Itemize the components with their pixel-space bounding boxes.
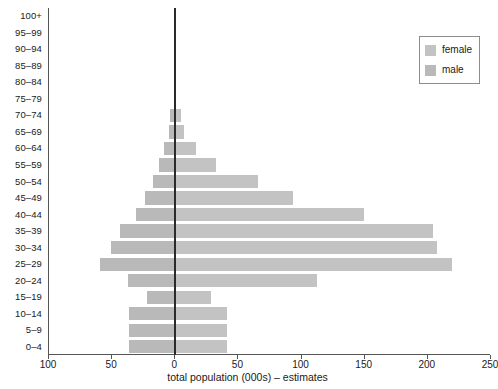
y-axis: 0–45–910–1415–1920–2425–2930–3435–3940–4… <box>0 8 46 355</box>
bar-male[interactable] <box>129 340 174 353</box>
bar-male[interactable] <box>120 224 174 237</box>
bar-male[interactable] <box>153 175 174 188</box>
chart-legend: female male <box>419 36 480 84</box>
bar-row <box>48 125 490 138</box>
bar-female[interactable] <box>174 142 195 155</box>
bar-female[interactable] <box>174 307 227 320</box>
y-tick-label: 100+ <box>20 12 42 22</box>
bar-row <box>48 340 490 353</box>
y-tick-label: 50–54 <box>15 177 42 187</box>
y-tick-label: 85–89 <box>15 61 42 71</box>
bar-male[interactable] <box>111 241 174 254</box>
bar-female[interactable] <box>174 175 257 188</box>
bar-female[interactable] <box>174 274 317 287</box>
bar-male[interactable] <box>129 324 174 337</box>
y-tick-label: 80–84 <box>15 78 42 88</box>
bar-row <box>48 241 490 254</box>
x-tick-label: 0 <box>172 360 178 370</box>
x-tick-label: 100 <box>292 360 309 370</box>
bar-male[interactable] <box>129 307 174 320</box>
x-tick-label: 50 <box>106 360 117 370</box>
bar-row <box>48 291 490 304</box>
bar-male[interactable] <box>159 158 174 171</box>
bar-row <box>48 158 490 171</box>
bar-male[interactable] <box>164 142 174 155</box>
bar-female[interactable] <box>174 258 452 271</box>
x-tick-label: 250 <box>482 360 498 370</box>
y-tick-label: 20–24 <box>15 276 42 286</box>
y-tick-label: 15–19 <box>15 292 42 302</box>
bar-female[interactable] <box>174 224 433 237</box>
zero-reference-line <box>174 8 175 355</box>
legend-item-male[interactable]: male <box>425 62 472 78</box>
bar-row <box>48 324 490 337</box>
bar-female[interactable] <box>174 291 211 304</box>
y-tick-label: 65–69 <box>15 127 42 137</box>
x-axis-title: total population (000s) – estimates <box>0 371 495 383</box>
x-tick-label: 200 <box>419 360 436 370</box>
y-tick-label: 75–79 <box>15 94 42 104</box>
bar-row <box>48 224 490 237</box>
bar-female[interactable] <box>174 324 227 337</box>
legend-swatch-male-icon <box>425 65 436 76</box>
x-tick-label: 150 <box>355 360 372 370</box>
bar-female[interactable] <box>174 241 437 254</box>
bar-female[interactable] <box>174 208 363 221</box>
y-tick-label: 5–9 <box>26 325 42 335</box>
bar-row <box>48 258 490 271</box>
y-tick-label: 0–4 <box>26 342 42 352</box>
y-tick-label: 60–64 <box>15 144 42 154</box>
bar-row <box>48 307 490 320</box>
bar-female[interactable] <box>174 340 227 353</box>
y-tick-label: 45–49 <box>15 193 42 203</box>
x-tick-label: 100 <box>40 360 57 370</box>
y-tick-label: 25–29 <box>15 259 42 269</box>
legend-label-male: male <box>442 65 464 75</box>
bar-row <box>48 109 490 122</box>
bar-male[interactable] <box>147 291 175 304</box>
bar-male[interactable] <box>136 208 174 221</box>
y-tick-label: 70–74 <box>15 111 42 121</box>
y-tick-label: 55–59 <box>15 160 42 170</box>
legend-item-female[interactable]: female <box>425 42 472 58</box>
legend-swatch-female-icon <box>425 45 436 56</box>
bar-male[interactable] <box>100 258 175 271</box>
bar-female[interactable] <box>174 158 216 171</box>
x-tick-label: 50 <box>232 360 243 370</box>
bar-row <box>48 208 490 221</box>
y-tick-label: 90–94 <box>15 45 42 55</box>
bar-female[interactable] <box>174 191 293 204</box>
y-tick-label: 10–14 <box>15 309 42 319</box>
bar-row <box>48 191 490 204</box>
y-tick-label: 40–44 <box>15 210 42 220</box>
bar-male[interactable] <box>145 191 174 204</box>
legend-label-female: female <box>442 45 472 55</box>
bar-row <box>48 175 490 188</box>
bar-row <box>48 274 490 287</box>
y-tick-label: 30–34 <box>15 243 42 253</box>
bar-female[interactable] <box>174 125 184 138</box>
bar-row <box>48 142 490 155</box>
bar-male[interactable] <box>128 274 175 287</box>
y-tick-label: 95–99 <box>15 28 42 38</box>
y-tick-label: 35–39 <box>15 226 42 236</box>
